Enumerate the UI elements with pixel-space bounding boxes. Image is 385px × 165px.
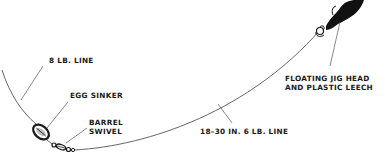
plastic-leech-icon [326, 0, 364, 30]
leader-line-label: 18–30 IN. 6 LB. LINE [200, 127, 288, 137]
callout-jig [330, 22, 340, 66]
callout-leader [218, 104, 232, 123]
egg-sinker-icon [30, 122, 52, 143]
jig-label-line2: AND PLASTIC LEECH [285, 83, 373, 93]
sinker-to-swivel-line [47, 140, 52, 144]
fishing-rig-diagram: 8 LB. LINE EGG SINKER BARREL SWIVEL 18–3… [0, 0, 385, 165]
floating-jig-head-icon [316, 26, 324, 37]
barrel-swivel-label-line2: SWIVEL [89, 127, 122, 137]
main-line-label: 8 LB. LINE [49, 56, 94, 66]
callout-barrel-swivel [66, 128, 87, 143]
callout-egg-sinker [47, 102, 68, 128]
main-line [2, 70, 36, 124]
barrel-swivel-icon [52, 143, 75, 152]
egg-sinker-label: EGG SINKER [70, 91, 123, 101]
callout-main-line [21, 66, 43, 100]
